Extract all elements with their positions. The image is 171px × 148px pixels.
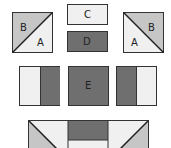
piece-label-a: A xyxy=(37,38,44,48)
assembled-block xyxy=(28,120,149,148)
piece-label-a: A xyxy=(131,38,138,48)
square-e: E xyxy=(68,66,109,106)
piece-label-b: B xyxy=(148,23,155,33)
half-square-triangle-right: B A xyxy=(123,12,164,53)
rectangle-d: D xyxy=(67,31,108,52)
split-square-left xyxy=(19,66,60,106)
half-square-triangle-left: B A xyxy=(12,12,53,53)
piece-label-b: B xyxy=(20,23,27,33)
hst-left-shape xyxy=(12,12,53,53)
piece-label-c: C xyxy=(84,10,91,20)
assembled-block-shape xyxy=(28,120,149,148)
hst-right-shape xyxy=(123,12,164,53)
rectangle-c: C xyxy=(67,4,108,25)
split-left-dark-half xyxy=(40,67,60,105)
split-square-right xyxy=(116,66,157,106)
piece-label-d: D xyxy=(83,37,91,47)
split-right-light-half xyxy=(136,67,156,105)
piece-label-e: E xyxy=(85,81,91,91)
